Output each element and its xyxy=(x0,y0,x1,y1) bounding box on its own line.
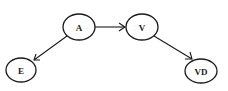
node-vd: VD xyxy=(185,59,217,83)
node-label-vd: VD xyxy=(195,67,208,77)
node-e: E xyxy=(6,58,36,82)
edge-v-to-vd xyxy=(154,36,192,59)
edge-a-to-e xyxy=(34,36,67,60)
edge-a-to-v xyxy=(95,23,125,31)
node-v: V xyxy=(126,14,158,40)
node-a: A xyxy=(63,14,95,40)
node-label-e: E xyxy=(18,66,24,76)
node-label-v: V xyxy=(139,23,146,33)
node-label-a: A xyxy=(76,23,83,33)
directed-graph: A V E VD xyxy=(0,0,228,91)
